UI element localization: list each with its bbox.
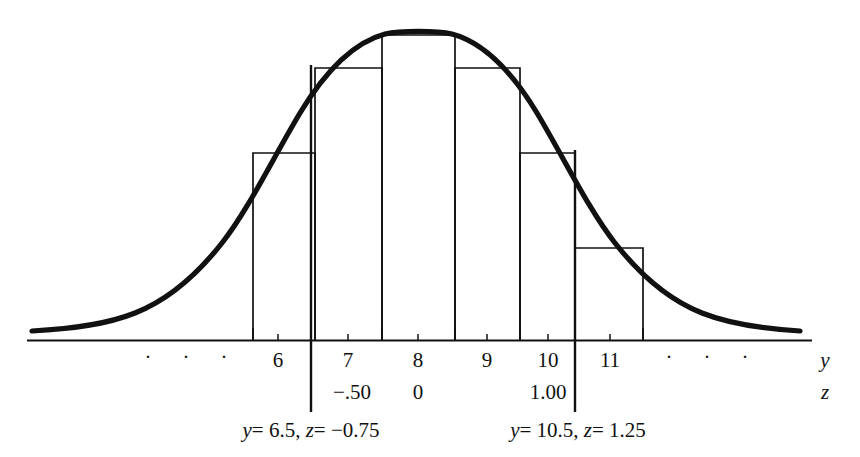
histogram-bar-10	[520, 153, 575, 340]
z-tick-label-one: 1.00	[530, 380, 567, 405]
z-tick-label-zero: 0	[413, 380, 424, 405]
ellipsis-dot-right-1: ·	[666, 345, 673, 370]
histogram-bar-9	[455, 68, 520, 340]
annotation-left-y-value: = 6.5,	[252, 418, 301, 442]
annotation-right-y-value: = 10.5,	[519, 418, 578, 442]
plot-canvas	[0, 0, 860, 457]
histogram-bar-8	[382, 35, 455, 340]
normal-approximation-figure: 6 7 8 9 10 11 · · · · · · −.50 0 1.00 y …	[0, 0, 860, 457]
histogram-bar-7	[315, 68, 382, 340]
annotation-left-z-value: = −0.75	[314, 418, 380, 442]
ellipsis-dot-left-2: ·	[183, 345, 190, 370]
z-axis-name: z	[821, 380, 829, 405]
y-tick-label-7: 7	[343, 348, 354, 373]
annotation-right-y-symbol: y	[510, 418, 519, 442]
ellipsis-dot-right-2: ·	[704, 345, 711, 370]
y-tick-label-11: 11	[600, 348, 620, 373]
annotation-right-boundary: y= 10.5, z= 1.25	[510, 418, 646, 443]
y-tick-label-6: 6	[273, 348, 284, 373]
annotation-right-z-value: = 1.25	[592, 418, 646, 442]
ellipsis-dot-left-1: ·	[145, 345, 152, 370]
annotation-right-z-symbol: z	[584, 418, 592, 442]
ellipsis-dot-right-3: ·	[742, 345, 749, 370]
y-tick-label-10: 10	[538, 348, 559, 373]
y-tick-label-9: 9	[482, 348, 493, 373]
annotation-left-boundary: y= 6.5, z= −0.75	[242, 418, 379, 443]
normal-curve	[32, 31, 800, 331]
y-tick-label-8: 8	[413, 348, 424, 373]
ellipsis-dot-left-3: ·	[221, 345, 228, 370]
z-tick-label-neg-half: −.50	[333, 380, 371, 405]
y-axis-name: y	[820, 348, 829, 373]
annotation-left-y-symbol: y	[242, 418, 251, 442]
